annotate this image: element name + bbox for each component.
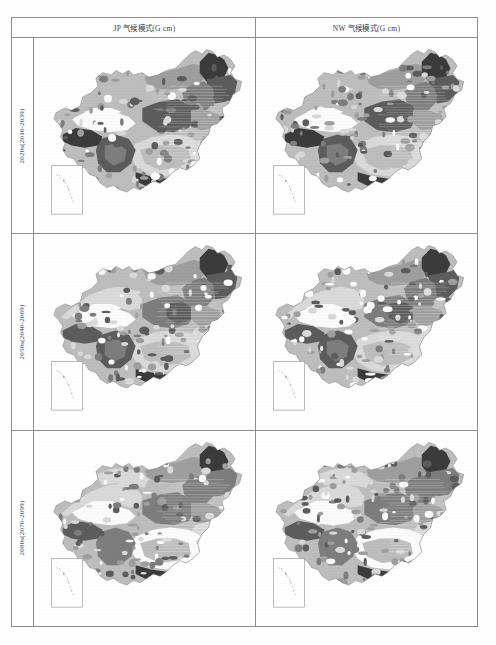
map-canvas — [34, 234, 255, 429]
map-grid-table: JP 气候模式(G cm) NW 气候模式(G cm) 2020s(2010-2… — [11, 17, 478, 627]
column-header-nw: NW 气候模式(G cm) — [255, 18, 477, 37]
china-map-nw-2080s — [256, 430, 477, 626]
china-map-nw-2020s — [256, 38, 477, 233]
header-corner-spacer — [12, 18, 34, 37]
row-label-2050s: 2050s(2040-2069) — [12, 233, 33, 429]
column-header-jp: JP 气候模式(G cm) — [34, 18, 255, 37]
china-map-nw-2050s — [256, 233, 477, 429]
table-body: 2020s(2010-2039) 2050s(2040-2069) 2080s(… — [12, 38, 477, 626]
china-map-jp-2080s — [34, 430, 255, 626]
map-canvas — [256, 431, 477, 626]
map-column-jp — [34, 38, 255, 626]
row-label-2020s-text: 2020s(2010-2039) — [19, 108, 27, 163]
map-canvas — [256, 234, 477, 429]
map-canvas — [34, 431, 255, 626]
map-canvas — [34, 38, 255, 233]
china-map-jp-2020s — [34, 38, 255, 233]
china-map-jp-2050s — [34, 233, 255, 429]
figure-page: JP 气候模式(G cm) NW 气候模式(G cm) 2020s(2010-2… — [0, 0, 496, 645]
map-canvas — [256, 38, 477, 233]
row-label-2080s-text: 2080s(2070-2099) — [19, 501, 27, 556]
table-header-row: JP 气候模式(G cm) NW 气候模式(G cm) — [12, 18, 477, 38]
row-label-2020s: 2020s(2010-2039) — [12, 38, 33, 233]
row-label-2050s-text: 2050s(2040-2069) — [19, 305, 27, 360]
row-label-column: 2020s(2010-2039) 2050s(2040-2069) 2080s(… — [12, 38, 34, 626]
map-column-nw — [255, 38, 477, 626]
row-label-2080s: 2080s(2070-2099) — [12, 430, 33, 626]
